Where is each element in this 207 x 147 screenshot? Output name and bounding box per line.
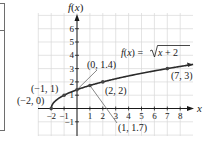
- data-point: [49, 107, 53, 111]
- x-tick-label: 6: [152, 111, 157, 121]
- y-tick-label: 3: [70, 64, 75, 74]
- point-label: (−2, 0): [17, 95, 44, 107]
- x-tick-label: 4: [126, 111, 131, 121]
- tick-marks: −2−112345678−1123456: [46, 24, 183, 127]
- point-label: (0, 1.4): [87, 59, 116, 71]
- x-tick-label: 7: [165, 111, 170, 121]
- y-tick-label: 6: [70, 24, 75, 34]
- svg-text:f(x) =: f(x) =: [121, 47, 143, 59]
- svg-text:x + 2: x + 2: [157, 47, 178, 58]
- x-tick-label: 8: [178, 111, 183, 121]
- point-label: (1, 1.7): [118, 122, 147, 134]
- data-point: [75, 88, 79, 92]
- x-tick-label: 2: [101, 111, 106, 121]
- x-axis-label: x: [196, 102, 202, 114]
- data-point: [101, 80, 105, 84]
- x-tick-label: 1: [88, 111, 93, 121]
- curve-arrow-icon: [187, 63, 193, 68]
- function-label: f(x) = x + 2: [121, 46, 190, 60]
- leader-lines: [77, 70, 117, 123]
- y-tick-label: −1: [64, 117, 74, 127]
- data-point: [166, 67, 170, 71]
- y-tick-label: 5: [70, 37, 75, 47]
- point-label: (−1, 1): [31, 83, 58, 95]
- point-label: (7, 3): [171, 70, 193, 82]
- x-tick-label: −2: [46, 111, 56, 121]
- data-point: [62, 93, 66, 97]
- x-axis-arrow-icon: [187, 106, 194, 111]
- point-label: (2, 2): [105, 85, 127, 97]
- function-graph: −2−112345678−1123456 (−2, 0)(−1, 1)(0, 1…: [0, 0, 207, 147]
- point-labels: (−2, 0)(−1, 1)(0, 1.4)(1, 1.7)(2, 2)(7, …: [17, 59, 193, 134]
- data-point: [88, 84, 92, 88]
- y-axis-label: f(x): [68, 1, 84, 14]
- y-tick-label: 2: [70, 77, 75, 87]
- y-tick-label: 4: [70, 50, 75, 60]
- x-tick-label: 5: [139, 111, 144, 121]
